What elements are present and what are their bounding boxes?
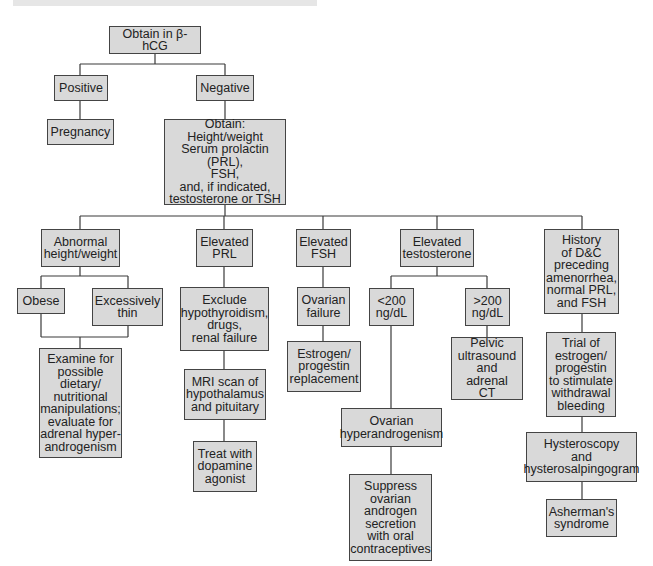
node-examine-dietary: Examine for possible dietary/ nutritiona… (39, 348, 122, 458)
node-abnormal-height-weight: Abnormal height/weight (41, 229, 120, 267)
node-elevated-prl: Elevated PRL (196, 229, 253, 267)
node-positive: Positive (54, 75, 108, 101)
node-obtain-bhcg: Obtain in β-hCG (109, 26, 201, 54)
node-trial-estrogen: Trial of estrogen/ progestin to stimulat… (546, 332, 616, 417)
node-elevated-testosterone: Elevated testosterone (400, 229, 474, 267)
node-gt200: >200 ng/dL (465, 288, 510, 326)
node-estrogen-replacement: Estrogen/ progestin replacement (287, 341, 361, 392)
node-obtain-tests: Obtain: Height/weight Serum prolactin (P… (164, 119, 286, 205)
node-history-dc: History of D&C preceding amenorrhea, nor… (544, 229, 619, 314)
node-excessively-thin: Excessively thin (92, 288, 163, 326)
node-suppress-ocp: Suppress ovarian androgen secretion with… (349, 474, 432, 561)
node-pelvic-ultrasound: Pelvic ultrasound and adrenal CT (451, 337, 523, 400)
node-dopamine-agonist: Treat with dopamine agonist (193, 441, 257, 492)
node-lt200: <200 ng/dL (369, 288, 414, 326)
node-exclude-hypothyroidism: Exclude hypothyroidism, drugs, renal fai… (180, 287, 269, 351)
node-ovarian-hyperandrogenism: Ovarian hyperandrogenism (341, 408, 442, 447)
node-mri-scan: MRI scan of hypothalamus and pituitary (184, 369, 266, 420)
node-ashermans-syndrome: Asherman's syndrome (546, 499, 617, 537)
node-obese: Obese (17, 288, 65, 314)
node-hysteroscopy: Hysteroscopy and hysterosalpingogram (526, 432, 637, 482)
node-pregnancy: Pregnancy (47, 119, 114, 145)
node-elevated-fsh: Elevated FSH (296, 229, 351, 267)
node-ovarian-failure: Ovarian failure (297, 287, 350, 326)
node-negative: Negative (196, 75, 254, 101)
